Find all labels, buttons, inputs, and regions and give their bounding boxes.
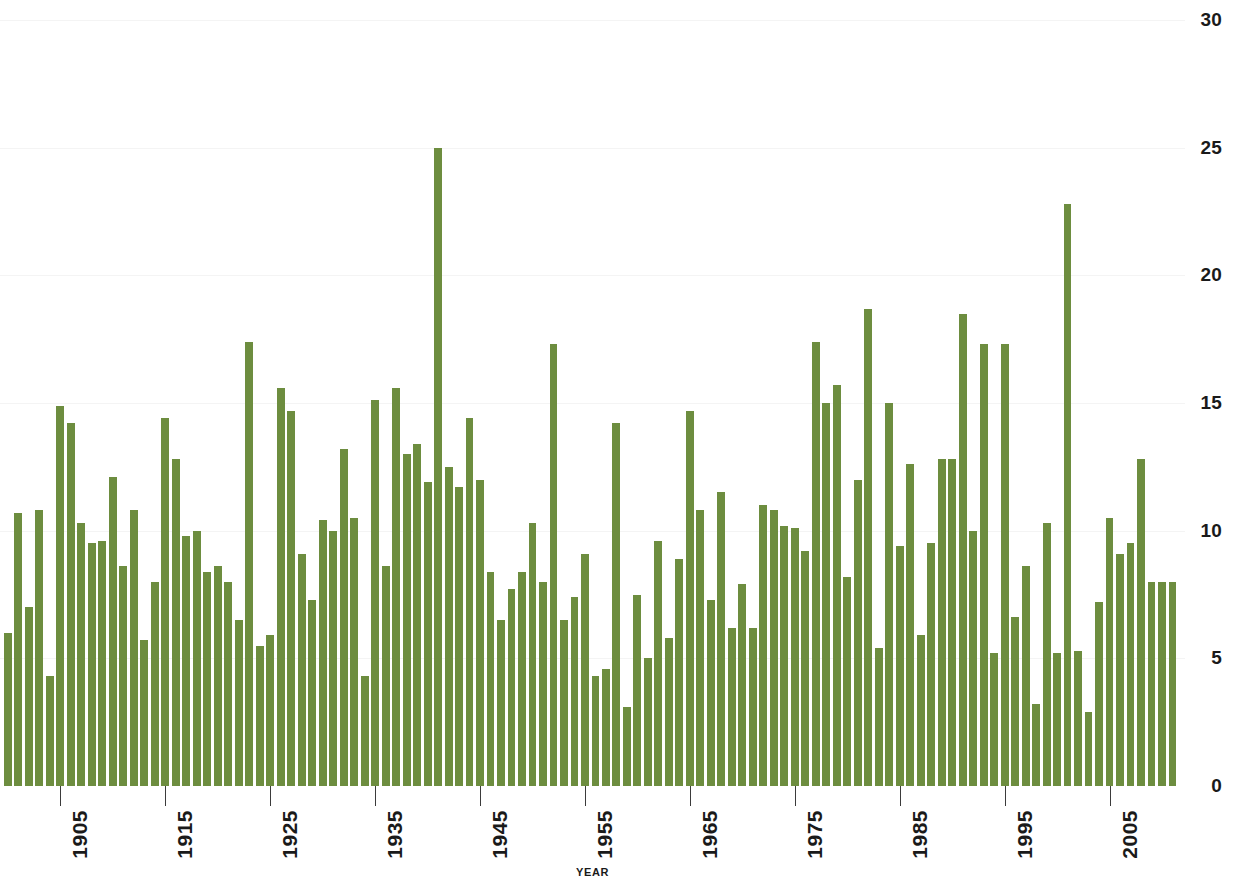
bar [476, 480, 484, 786]
y-tick-label-5: 5 [1211, 647, 1222, 669]
bar [455, 487, 463, 786]
bar [675, 559, 683, 786]
bar [277, 388, 285, 786]
x-tick-label-1945: 1945 [488, 810, 512, 859]
bar [927, 543, 935, 786]
bar [1001, 344, 1009, 786]
bar [172, 459, 180, 786]
bar [287, 411, 295, 786]
bar [896, 546, 904, 786]
bar [906, 464, 914, 786]
bar [224, 582, 232, 786]
bar [539, 582, 547, 786]
bar [1011, 617, 1019, 786]
bar [266, 635, 274, 786]
bar [182, 536, 190, 786]
bar [1137, 459, 1145, 786]
bar [361, 676, 369, 786]
bar [980, 344, 988, 786]
bar [518, 572, 526, 786]
bar [1148, 582, 1156, 786]
bar [592, 676, 600, 786]
bar [1158, 582, 1166, 786]
bar [35, 510, 43, 786]
x-tick-label-1905: 1905 [68, 810, 92, 859]
bar [780, 526, 788, 786]
x-tick-mark-2005 [1110, 786, 1111, 806]
bar [529, 523, 537, 786]
bar [749, 628, 757, 786]
bar [938, 459, 946, 786]
bar [382, 566, 390, 786]
bar [88, 543, 96, 786]
x-tick-label-1965: 1965 [698, 810, 722, 859]
bar [948, 459, 956, 786]
bar [822, 403, 830, 786]
bar [1043, 523, 1051, 786]
bar-series [0, 0, 1185, 786]
bar [644, 658, 652, 786]
x-tick-mark-1935 [375, 786, 376, 806]
bar [560, 620, 568, 786]
bar [1032, 704, 1040, 786]
x-tick-label-1995: 1995 [1013, 810, 1037, 859]
x-tick-mark-1965 [690, 786, 691, 806]
bar [571, 597, 579, 786]
bar [151, 582, 159, 786]
bar [392, 388, 400, 786]
bar [203, 572, 211, 786]
bar [728, 628, 736, 786]
bar [214, 566, 222, 786]
bar [612, 423, 620, 786]
bar [98, 541, 106, 786]
x-tick-mark-1955 [585, 786, 586, 806]
bar [109, 477, 117, 786]
bar [508, 589, 516, 786]
bar [875, 648, 883, 786]
bar [623, 707, 631, 786]
bar [193, 531, 201, 786]
bar [633, 595, 641, 787]
y-axis: 051015202530 [1196, 0, 1244, 800]
y-tick-label-0: 0 [1211, 775, 1222, 797]
y-tick-label-20: 20 [1200, 264, 1222, 286]
bar [654, 541, 662, 786]
bar [717, 492, 725, 786]
bar [1022, 566, 1030, 786]
bar [413, 444, 421, 786]
bar [245, 342, 253, 786]
bar [885, 403, 893, 786]
bar [686, 411, 694, 786]
bar [864, 309, 872, 786]
bar [1053, 653, 1061, 786]
x-tick-mark-1995 [1005, 786, 1006, 806]
x-tick-label-1955: 1955 [593, 810, 617, 859]
bar [801, 551, 809, 786]
bar [329, 531, 337, 786]
bar [434, 148, 442, 786]
x-tick-mark-1915 [165, 786, 166, 806]
bar [854, 480, 862, 786]
bar [833, 385, 841, 786]
bar [1085, 712, 1093, 786]
x-tick-mark-1925 [270, 786, 271, 806]
x-tick-label-1985: 1985 [908, 810, 932, 859]
bar [130, 510, 138, 786]
bar [990, 653, 998, 786]
bar [1074, 651, 1082, 786]
bar [308, 600, 316, 786]
y-tick-label-30: 30 [1200, 9, 1222, 31]
bar [424, 482, 432, 786]
y-tick-label-25: 25 [1200, 137, 1222, 159]
bar [67, 423, 75, 786]
bar [161, 418, 169, 786]
plot-area [0, 0, 1185, 800]
bar [707, 600, 715, 786]
bar [140, 640, 148, 786]
bar [602, 669, 610, 786]
bar [466, 418, 474, 786]
bar [445, 467, 453, 786]
bar [298, 554, 306, 786]
x-axis-title: YEAR [0, 866, 1185, 878]
bar [812, 342, 820, 786]
